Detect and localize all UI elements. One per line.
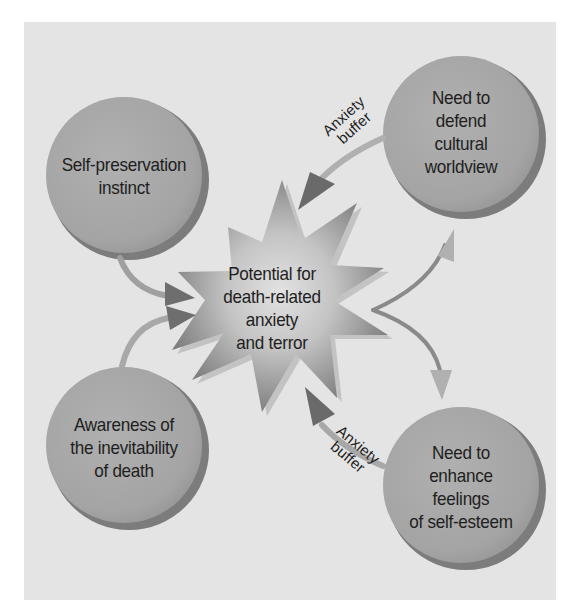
center-label: Potential for death-related anxiety and … [205,262,340,354]
node-label-awareness-of-death: Awareness of the inevitability of death [52,413,196,482]
arrow-center-to-self-esteem [373,310,452,400]
arrow-center-to-cultural-worldview [373,229,454,310]
arrow-self-preservation-to-center [120,258,195,306]
node-label-self-preservation: Self-preservation instinct [52,153,196,199]
node-label-self-esteem: Need to enhance feelings of self-esteem [389,441,533,533]
node-label-cultural-worldview: Need to defend cultural worldview [398,86,524,178]
